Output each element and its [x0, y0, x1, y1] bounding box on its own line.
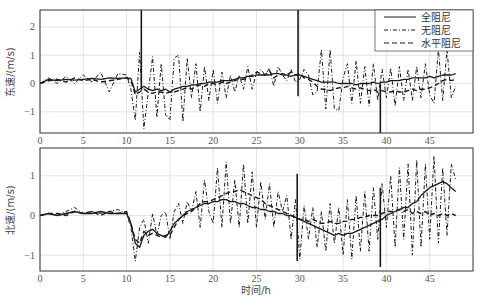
x-tick-label: 10 — [122, 273, 132, 284]
bottom-y-axis-label: 北速/(m/s) — [5, 185, 16, 235]
x-tick-label: 0 — [38, 135, 43, 146]
legend: 全阻尼 无阻尼 水平阻尼 — [375, 10, 473, 51]
x-tick-label: 30 — [295, 135, 305, 146]
y-tick-label: 0 — [30, 210, 35, 221]
x-tick-label: 15 — [165, 273, 175, 284]
x-tick-label: 40 — [381, 273, 391, 284]
top-y-axis-label: 东速/(m/s) — [4, 47, 16, 97]
x-axis-label: 时间/h — [241, 284, 271, 296]
x-tick-label: 40 — [381, 135, 391, 146]
y-tick-label: −1 — [24, 250, 35, 261]
y-tick-label: −1 — [24, 106, 35, 117]
x-tick-label: 25 — [252, 135, 262, 146]
x-tick-label: 5 — [81, 135, 86, 146]
y-tick-label: 1 — [30, 50, 35, 61]
x-tick-label: 0 — [38, 273, 43, 284]
figure: 051015202530354045−1012 0510152025303540… — [0, 0, 479, 300]
x-tick-label: 45 — [425, 273, 435, 284]
x-tick-label: 35 — [338, 273, 348, 284]
x-tick-label: 5 — [81, 273, 86, 284]
legend-label-full-damping: 全阻尼 — [421, 11, 451, 23]
y-tick-label: 2 — [30, 21, 35, 32]
bottom-plot-north-velocity: 051015202530354045−101 — [24, 148, 473, 284]
x-tick-label: 20 — [208, 135, 218, 146]
x-tick-label: 25 — [252, 273, 262, 284]
x-tick-label: 35 — [338, 135, 348, 146]
legend-label-no-damping: 无阻尼 — [421, 25, 451, 36]
x-tick-label: 20 — [208, 273, 218, 284]
y-tick-label: 1 — [30, 170, 35, 181]
y-tick-label: 0 — [30, 78, 35, 89]
x-tick-label: 10 — [122, 135, 132, 146]
legend-label-horizontal-damping: 水平阻尼 — [421, 38, 461, 49]
x-tick-label: 15 — [165, 135, 175, 146]
x-tick-label: 30 — [295, 273, 305, 284]
x-tick-label: 45 — [425, 135, 435, 146]
